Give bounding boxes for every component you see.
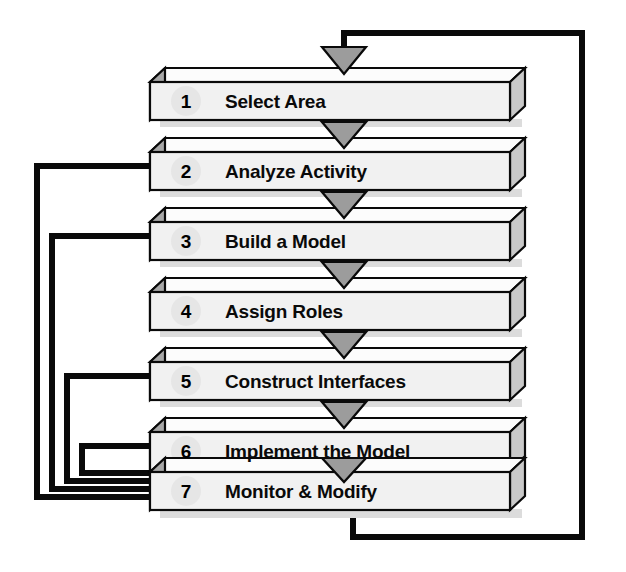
step-label-4: Assign Roles — [225, 302, 343, 321]
step-number-5: 5 — [172, 372, 200, 391]
step-label-5: Construct Interfaces — [225, 372, 406, 391]
step-number-2: 2 — [172, 162, 200, 181]
step-label-1: Select Area — [225, 92, 326, 111]
step-label-6: Implement the Model — [225, 442, 410, 461]
step-label-3: Build a Model — [225, 232, 346, 251]
step-number-1: 1 — [172, 92, 200, 111]
step-box-1[interactable] — [150, 68, 525, 120]
step-number-6: 6 — [172, 442, 200, 461]
diagram-canvas: 1 Select Area 2 Analyze Activity 3 Build… — [0, 0, 626, 572]
step-label-7: Monitor & Modify — [225, 482, 377, 501]
step-label-2: Analyze Activity — [225, 162, 367, 181]
step-number-3: 3 — [172, 232, 200, 251]
step-number-7: 7 — [172, 482, 200, 501]
step-number-4: 4 — [172, 302, 200, 321]
